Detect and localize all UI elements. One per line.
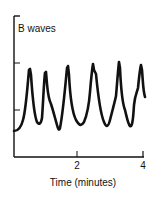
- b-wave-trace: [14, 62, 145, 131]
- x-tick-label-4: 4: [140, 160, 146, 171]
- series-label: B waves: [18, 23, 56, 34]
- b-waves-chart: B waves 2 4 Time (minutes): [0, 0, 155, 199]
- x-axis-label: Time (minutes): [50, 177, 116, 188]
- x-tick-label-2: 2: [74, 160, 80, 171]
